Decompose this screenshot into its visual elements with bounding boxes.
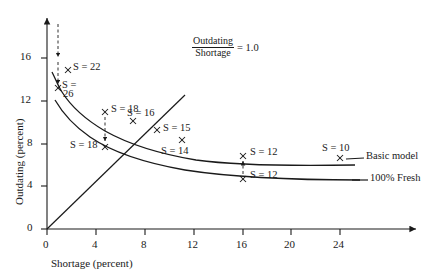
- chart-container: 16 12 8 4 0 0 4 8 12 16 20 24 Shortage (…: [0, 0, 441, 278]
- data-point-s15: [154, 127, 160, 133]
- x-tick-label-12: 12: [187, 239, 198, 250]
- series-line-fresh: [55, 100, 360, 180]
- y-tick-label-4: 4: [27, 179, 33, 190]
- x-tick-label-16: 16: [236, 239, 247, 250]
- series-label-basic-model: Basic model: [366, 151, 418, 162]
- x-axis-title: Shortage (percent): [51, 258, 133, 269]
- y-axis-title: Outdating (percent): [14, 119, 25, 205]
- data-point-s10: [337, 155, 343, 161]
- data-point-s16: [130, 118, 136, 124]
- data-point-s22: [65, 67, 71, 73]
- point-label-s14: S = 14: [161, 146, 189, 157]
- x-axis-ticks: [47, 229, 340, 235]
- ratio-annotation: Outdating Shortage = 1.0: [192, 36, 259, 58]
- point-label-s16: S = 16: [127, 108, 155, 119]
- point-label-s12-lower: S = 12: [250, 170, 278, 181]
- point-label-s26-line2: 26: [63, 89, 74, 100]
- ratio-denominator: Shortage: [192, 48, 234, 59]
- series-label-fresh: 100% Fresh: [370, 173, 420, 184]
- point-label-s22: S = 22: [73, 62, 101, 73]
- data-point-s12-upper: [240, 153, 246, 159]
- ratio-equals: = 1.0: [237, 42, 259, 53]
- series-markers-basic-model: [55, 67, 343, 161]
- leader-line-basic-model: [346, 158, 364, 159]
- x-tick-label-0: 0: [43, 239, 49, 250]
- y-tick-label-12: 12: [20, 94, 31, 105]
- point-label-s10: S = 10: [322, 143, 350, 154]
- series-line-basic-model: [52, 72, 355, 165]
- x-tick-label-4: 4: [92, 239, 98, 250]
- y-tick-label-16: 16: [20, 51, 31, 62]
- data-point-s14: [179, 137, 185, 143]
- x-tick-label-20: 20: [284, 239, 295, 250]
- data-point-s18-upper: [102, 109, 108, 115]
- x-tick-label-8: 8: [141, 239, 147, 250]
- point-label-s18-lower: S = 18: [70, 140, 98, 151]
- point-label-s15: S = 15: [163, 123, 191, 134]
- y-tick-label-8: 8: [27, 137, 33, 148]
- y-tick-label-0: 0: [27, 222, 33, 233]
- ratio-reference-line: [47, 95, 185, 229]
- point-label-s12-upper: S = 12: [250, 147, 278, 158]
- y-axis-ticks: [41, 58, 47, 229]
- x-tick-label-24: 24: [333, 239, 344, 250]
- ratio-numerator: Outdating: [192, 36, 234, 48]
